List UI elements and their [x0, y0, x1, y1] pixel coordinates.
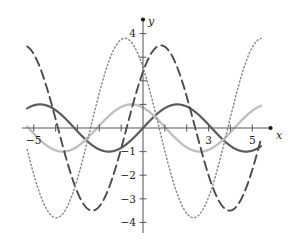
x-tick-label-5: 5 — [249, 134, 256, 146]
y-tick-label-neg1: −1 — [121, 145, 136, 157]
y-axis-arrow-head — [141, 17, 145, 21]
y-axis-label: y — [147, 15, 155, 28]
x-axis-label: x — [276, 129, 283, 142]
y-tick-label-neg4: −4 — [121, 216, 137, 228]
plot-canvas: 35−54−1−2−3−4 x y — [0, 0, 292, 249]
x-tick-label-neg5: −5 — [26, 134, 41, 146]
axes-layer — [22, 17, 273, 233]
x-axis-arrow-head — [268, 126, 272, 130]
y-tick-label-neg2: −2 — [121, 169, 136, 181]
y-tick-label-4: 4 — [129, 27, 136, 39]
trig-curves-figure: 35−54−1−2−3−4 x y — [0, 0, 292, 249]
y-tick-label-neg3: −3 — [121, 193, 136, 205]
x-tick-label-3: 3 — [205, 134, 212, 146]
